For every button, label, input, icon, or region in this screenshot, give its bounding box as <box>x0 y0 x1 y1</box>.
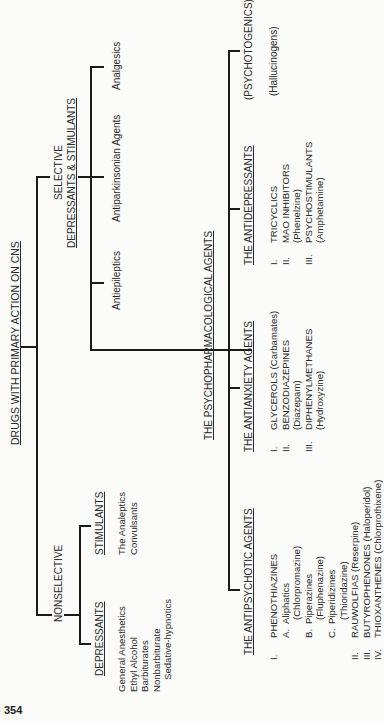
list-item: A.Aliphatics <box>280 480 292 660</box>
list-item: III.PSYCHOSTIMULANTS <box>303 142 315 265</box>
depressant-item: Nonbarbiturate <box>151 599 163 692</box>
list-item: (Hydroxyzine) <box>314 311 326 452</box>
antidepressants-connector <box>228 208 240 210</box>
list-item: I.GLYCEROLS (Carbamates) <box>268 311 280 452</box>
antipsychotic-list: I.PHENOTHIAZINES A.Aliphatics (Chlorprom… <box>268 480 384 660</box>
depressant-item: General Anesthetics <box>116 599 128 692</box>
nonselective-connector <box>36 614 52 616</box>
depressants-list: General Anesthetics Ethyl Alcohol Barbit… <box>116 599 174 692</box>
psychopharm-trunk <box>228 50 230 591</box>
depressants-label: DEPRESSANTS <box>94 602 105 676</box>
list-item: IV.THIOXANTHENES (Chlorprothixene) <box>372 480 384 660</box>
psychotogenics-connector <box>228 50 240 52</box>
root-title: DRUGS WITH PRIMARY ACTION ON CNS <box>10 241 21 445</box>
depressant-item: Sedative-hypnotics <box>162 599 174 692</box>
depressant-item: Ethyl Alcohol <box>128 599 140 692</box>
stimulants-list: The Analeptics Convulsants <box>116 492 139 555</box>
antianxiety-label: THE ANTIANXIETY AGENTS <box>243 321 254 452</box>
main-trunk <box>36 177 38 616</box>
list-item: II.BENZODIAZEPINES <box>280 311 292 452</box>
list-item: (Phenelzine) <box>291 142 303 265</box>
root-connector <box>20 346 36 348</box>
antiparkinsonian-label: Antiparkinsonian Agents <box>111 115 122 222</box>
antiepileptics-connector <box>90 282 104 284</box>
page-number: 354 <box>4 704 22 716</box>
analgesics-connector <box>90 66 104 68</box>
list-item: III.BUTYROPHENONES (Haloperidol) <box>361 480 373 660</box>
selective-label-1: SELECTIVE <box>53 145 64 200</box>
list-item: (Diazepam) <box>291 311 303 452</box>
list-item: B.Piperazines <box>303 480 315 660</box>
stimulants-label: STIMULANTS <box>94 492 105 555</box>
selective-stem <box>78 176 90 178</box>
selective-trunk <box>90 66 92 351</box>
psychotogenics-label: (PSYCHOTOGENICS) <box>243 0 254 100</box>
list-item: (Amphetamine) <box>314 142 326 265</box>
antiparkinsonian-connector <box>90 176 104 178</box>
list-item: (Fluphenazine) <box>314 480 326 660</box>
list-item: II.MAO INHIBITORS <box>280 142 292 265</box>
stimulant-item: Convulsants <box>128 492 140 555</box>
list-item: II.RAUWOLFIAS (Reserpine) <box>349 480 361 660</box>
psychopharm-title: THE PSYCHOPHARMACOLOGICAL AGENTS <box>203 231 214 440</box>
selective-label-2: DEPRESSANTS & STIMULANTS <box>66 98 77 248</box>
antidepressants-list: I.TRICYCLICS II.MAO INHIBITORS (Phenelzi… <box>268 142 326 265</box>
antiepileptics-label: Antiepileptics <box>111 251 122 310</box>
list-item: I.PHENOTHIAZINES <box>268 480 280 660</box>
antipsychotic-label: THE ANTIPSYCHOTIC AGENTS <box>243 508 254 655</box>
nonselective-label: NONSELECTIVE <box>53 545 64 622</box>
stimulant-item: The Analeptics <box>116 492 128 555</box>
list-item: I.TRICYCLICS <box>268 142 280 265</box>
list-item: C.Piperidizines <box>326 480 338 660</box>
depressant-item: Barbiturates <box>139 599 151 692</box>
stimulants-connector <box>79 525 91 527</box>
nonselective-connector-b <box>64 614 80 616</box>
antidepressants-label: THE ANTIDEPRESSANTS <box>243 146 254 265</box>
list-item: (Thioridazine) <box>338 480 350 660</box>
selective-connector <box>36 176 50 178</box>
nonselective-trunk <box>79 525 81 645</box>
list-item: (Chlorpromazine) <box>291 480 303 660</box>
list-item: III.DIPHENYLMETHANES <box>303 311 315 452</box>
antianxiety-connector <box>228 387 240 389</box>
analgesics-label: Analgesics <box>111 42 122 90</box>
antipsychotic-connector <box>228 589 240 591</box>
depressants-connector <box>79 643 91 645</box>
antianxiety-list: I.GLYCEROLS (Carbamates) II.BENZODIAZEPI… <box>268 311 326 452</box>
hallucinogens-label: (Hallucinogens) <box>268 27 279 96</box>
